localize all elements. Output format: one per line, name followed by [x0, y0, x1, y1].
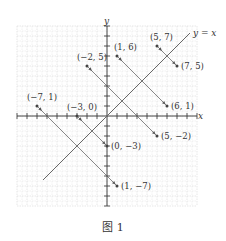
point — [36, 105, 39, 108]
point-label: (1, −7) — [121, 181, 151, 191]
y-axis-label: y — [103, 16, 110, 26]
point — [176, 65, 179, 68]
diagonal-line-label: y = x — [192, 28, 216, 38]
point — [106, 145, 109, 148]
point — [156, 135, 159, 138]
point-label: (−3, 0) — [67, 102, 97, 112]
point-label: (−7, 1) — [27, 92, 57, 102]
point — [116, 55, 119, 58]
point-label: (0, −3) — [111, 141, 141, 151]
point-label: (−2, 5) — [77, 52, 107, 62]
point — [76, 115, 79, 118]
point-label: (7, 5) — [181, 61, 204, 71]
coordinate-figure: xy y = x (−7, 1)(1, −7)(−3, 0)(0, −3)(−2… — [0, 0, 226, 241]
point-label: (5, 7) — [150, 32, 173, 42]
x-axis-label: x — [198, 111, 203, 121]
point — [116, 185, 119, 188]
point-label: (5, −2) — [161, 131, 191, 141]
point — [156, 45, 159, 48]
point — [86, 65, 89, 68]
point — [166, 105, 169, 108]
figure-caption: 图 1 — [0, 218, 226, 234]
point-label: (6, 1) — [171, 101, 194, 111]
point-label: (1, 6) — [114, 42, 137, 52]
